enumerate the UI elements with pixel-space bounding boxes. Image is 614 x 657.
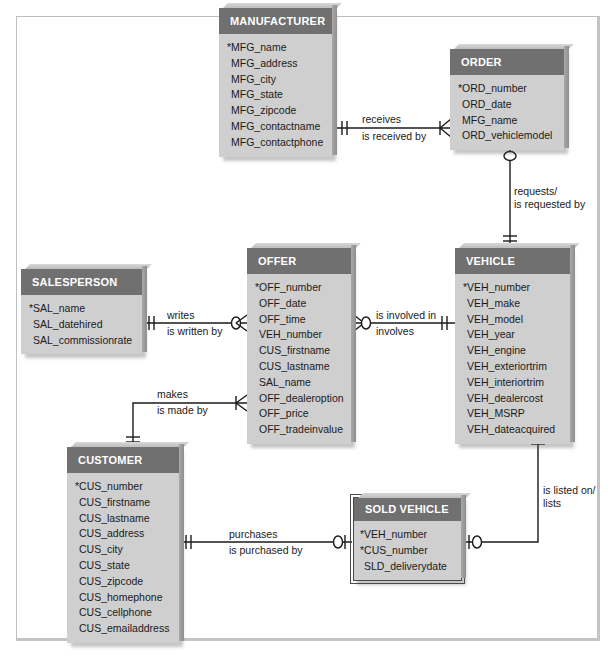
attribute-pk: *OFF_number	[255, 280, 347, 296]
attribute: VEH_MSRP	[463, 406, 566, 422]
attribute-list: *ORD_number ORD_date MFG_name ORD_vehicl…	[450, 75, 564, 150]
attribute: CUS_address	[75, 526, 175, 542]
attribute: MFG_address	[227, 56, 328, 72]
attribute: ORD_date	[458, 97, 560, 113]
attribute: OFF_tradeinvalue	[255, 422, 347, 438]
relationship-label: is purchased by	[229, 544, 303, 557]
entity-title: ORDER	[450, 49, 564, 75]
relationship-label: is requested by	[514, 198, 585, 211]
attribute-pk: *CUS_number	[360, 543, 457, 559]
entity-title: MANUFACTURER	[219, 8, 332, 34]
relationship-label: is listed on/	[543, 484, 596, 497]
attribute: CUS_firstname	[255, 343, 347, 359]
attribute: CUS_firstname	[75, 495, 175, 511]
attribute: VEH_year	[463, 327, 566, 343]
attribute-list: *MFG_name MFG_address MFG_city MFG_state…	[219, 34, 332, 157]
entity-offer[interactable]: OFFER *OFF_number OFF_date OFF_time VEH_…	[247, 248, 351, 444]
attribute: CUS_state	[75, 558, 175, 574]
relationship-listed	[462, 432, 545, 549]
attribute: CUS_lastname	[255, 359, 347, 375]
relationship-label: receives	[362, 113, 401, 126]
entity-title: VEHICLE	[455, 248, 570, 274]
attribute-pk: *CUS_number	[75, 479, 175, 495]
attribute: VEH_interiortrim	[463, 375, 566, 391]
attribute-list: *VEH_number *CUS_number SLD_deliverydate	[354, 521, 461, 580]
attribute: CUS_cellphone	[75, 605, 175, 621]
attribute: OFF_price	[255, 406, 347, 422]
attribute: CUS_emailaddress	[75, 621, 175, 637]
relationship-label: lists	[543, 497, 561, 510]
attribute: VEH_engine	[463, 343, 566, 359]
relationship-label: purchases	[229, 528, 277, 541]
attribute: VEH_number	[255, 327, 347, 343]
relationship-label: is made by	[157, 404, 208, 417]
attribute: SAL_name	[255, 375, 347, 391]
attribute-list: *VEH_number VEH_make VEH_model VEH_year …	[455, 274, 570, 444]
relationship-label: writes	[167, 309, 194, 322]
attribute: VEH_dealercost	[463, 391, 566, 407]
attribute: OFF_date	[255, 296, 347, 312]
attribute-pk: *ORD_number	[458, 81, 560, 97]
relationship-makes	[126, 395, 247, 445]
attribute-pk: *VEH_number	[463, 280, 566, 296]
attribute-pk: *SAL_name	[29, 301, 138, 317]
attribute: MFG_name	[458, 113, 560, 129]
attribute: CUS_city	[75, 542, 175, 558]
entity-customer[interactable]: CUSTOMER *CUS_number CUS_firstname CUS_l…	[67, 447, 179, 643]
attribute: MFG_contactphone	[227, 135, 328, 151]
attribute: MFG_state	[227, 87, 328, 103]
attribute-list: *OFF_number OFF_date OFF_time VEH_number…	[247, 274, 351, 444]
attribute: SAL_datehired	[29, 317, 138, 333]
relationship-label: is written by	[167, 325, 222, 338]
entity-salesperson[interactable]: SALESPERSON *SAL_name SAL_datehired SAL_…	[21, 269, 142, 354]
attribute: ORD_vehiclemodel	[458, 128, 560, 144]
relationship-label: makes	[157, 388, 188, 401]
attribute: VEH_dateacquired	[463, 422, 566, 438]
entity-vehicle[interactable]: VEHICLE *VEH_number VEH_make VEH_model V…	[455, 248, 570, 444]
attribute: VEH_exteriortrim	[463, 359, 566, 375]
attribute: SLD_deliverydate	[360, 559, 457, 575]
relationship-label: requests/	[514, 185, 557, 198]
attribute: CUS_homephone	[75, 590, 175, 606]
attribute: MFG_city	[227, 72, 328, 88]
attribute: MFG_contactname	[227, 119, 328, 135]
attribute-list: *SAL_name SAL_datehired SAL_commissionra…	[21, 295, 142, 354]
entity-title: CUSTOMER	[67, 447, 179, 473]
relationship-label: involves	[376, 325, 414, 338]
relationship-label: is involved in	[376, 309, 436, 322]
entity-sold-vehicle[interactable]: SOLD VEHICLE *VEH_number *CUS_number SLD…	[353, 497, 462, 581]
relationship-label: is received by	[362, 130, 426, 143]
entity-order[interactable]: ORDER *ORD_number ORD_date MFG_name ORD_…	[450, 49, 564, 150]
attribute-pk: *MFG_name	[227, 40, 328, 56]
attribute: OFF_dealeroption	[255, 391, 347, 407]
attribute: CUS_lastname	[75, 511, 175, 527]
attribute-list: *CUS_number CUS_firstname CUS_lastname C…	[67, 473, 179, 643]
attribute: SAL_commissionrate	[29, 333, 138, 349]
attribute: CUS_zipcode	[75, 574, 175, 590]
entity-title: SOLD VEHICLE	[354, 498, 461, 521]
attribute-pk: *VEH_number	[360, 527, 457, 543]
attribute: MFG_zipcode	[227, 103, 328, 119]
entity-manufacturer[interactable]: MANUFACTURER *MFG_name MFG_address MFG_c…	[219, 8, 332, 157]
attribute: VEH_make	[463, 296, 566, 312]
entity-title: SALESPERSON	[21, 269, 142, 295]
attribute: OFF_time	[255, 312, 347, 328]
entity-title: OFFER	[247, 248, 351, 274]
attribute: VEH_model	[463, 312, 566, 328]
